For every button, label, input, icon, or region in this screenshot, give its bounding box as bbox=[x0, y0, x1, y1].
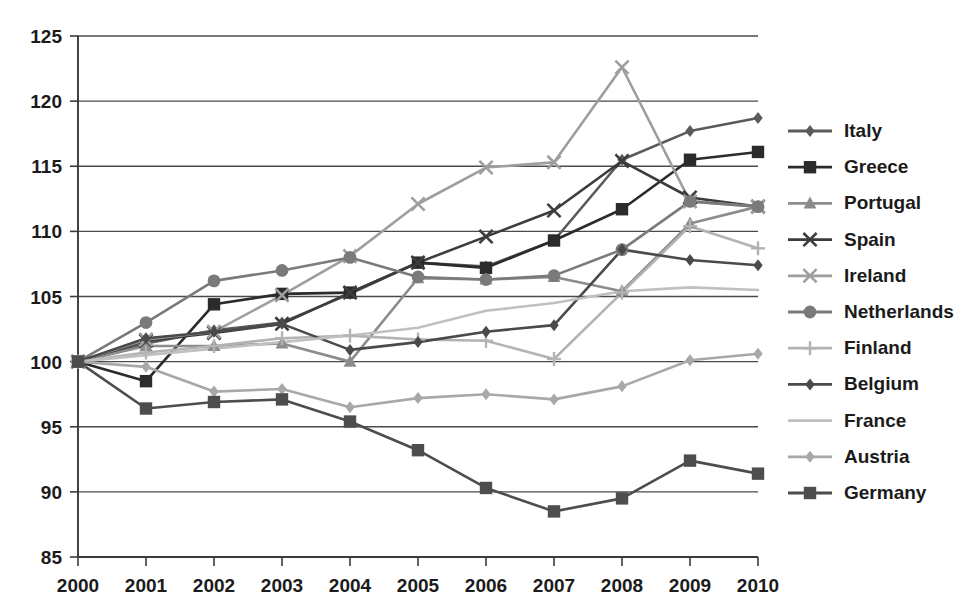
circle-marker bbox=[276, 264, 289, 277]
y-tick-label: 100 bbox=[30, 352, 62, 373]
y-tick-label: 90 bbox=[41, 482, 62, 503]
legend-label: Ireland bbox=[844, 265, 906, 286]
legend-item-france[interactable]: France bbox=[788, 410, 906, 431]
square-marker bbox=[480, 262, 492, 274]
legend-item-portugal[interactable]: Portugal bbox=[788, 192, 921, 213]
diamond-marker bbox=[685, 125, 694, 137]
diamond-marker bbox=[141, 361, 150, 373]
plus-marker bbox=[803, 341, 817, 355]
x-tick-label: 2003 bbox=[261, 575, 303, 596]
plus-marker bbox=[751, 241, 765, 255]
y-tick-label: 125 bbox=[30, 26, 62, 47]
x-tick-label: 2000 bbox=[57, 575, 99, 596]
circle-marker bbox=[684, 195, 697, 208]
diamond-marker bbox=[805, 378, 814, 390]
diamond-marker bbox=[413, 392, 422, 404]
square-marker bbox=[276, 393, 288, 405]
chart-canvas: 859095100105110115120125 200020012002200… bbox=[0, 0, 976, 615]
legend-label: Austria bbox=[844, 446, 910, 467]
series-markers-italy bbox=[73, 112, 762, 368]
x-axis-ticks bbox=[78, 557, 758, 566]
legend-item-greece[interactable]: Greece bbox=[788, 156, 908, 177]
legend-item-belgium[interactable]: Belgium bbox=[788, 373, 919, 394]
y-axis-tick-labels: 859095100105110115120125 bbox=[30, 26, 62, 568]
diamond-marker bbox=[753, 348, 762, 360]
x-marker bbox=[547, 204, 560, 217]
diamond-marker bbox=[549, 393, 558, 405]
square-marker bbox=[752, 467, 764, 479]
square-marker bbox=[684, 154, 696, 166]
series-line-germany bbox=[78, 362, 758, 512]
square-marker bbox=[752, 146, 764, 158]
legend-item-ireland[interactable]: Ireland bbox=[788, 265, 906, 286]
circle-marker bbox=[140, 316, 153, 329]
x-tick-label: 2009 bbox=[669, 575, 711, 596]
circle-marker bbox=[752, 200, 765, 213]
legend-item-germany[interactable]: Germany bbox=[788, 482, 927, 503]
legend-label: Germany bbox=[844, 482, 927, 503]
x-marker bbox=[411, 197, 424, 210]
diamond-marker bbox=[345, 344, 354, 356]
x-tick-label: 2006 bbox=[465, 575, 507, 596]
legend-label: Portugal bbox=[844, 192, 921, 213]
circle-marker bbox=[344, 251, 357, 264]
x-tick-label: 2001 bbox=[125, 575, 168, 596]
x-tick-label: 2008 bbox=[601, 575, 643, 596]
square-marker bbox=[548, 234, 560, 246]
square-marker bbox=[616, 203, 628, 215]
diamond-marker bbox=[481, 326, 490, 338]
series-markers-ireland bbox=[71, 61, 764, 369]
x-tick-label: 2002 bbox=[193, 575, 235, 596]
circle-marker bbox=[208, 274, 221, 287]
diamond-marker bbox=[617, 380, 626, 392]
legend-item-finland[interactable]: Finland bbox=[788, 337, 912, 358]
y-axis-ticks bbox=[70, 36, 78, 557]
diamond-marker bbox=[209, 386, 218, 398]
diamond-marker bbox=[413, 336, 422, 348]
y-tick-label: 105 bbox=[30, 287, 62, 308]
circle-marker bbox=[804, 306, 817, 319]
series-line-italy bbox=[78, 118, 758, 362]
x-axis-tick-labels: 2000200120022003200420052006200720082009… bbox=[57, 575, 779, 596]
square-marker bbox=[804, 487, 816, 499]
legend-label: Spain bbox=[844, 229, 896, 250]
legend-item-austria[interactable]: Austria bbox=[788, 446, 910, 467]
legend-item-netherlands[interactable]: Netherlands bbox=[788, 301, 954, 322]
diamond-marker bbox=[685, 354, 694, 366]
series-markers-austria bbox=[73, 348, 762, 413]
y-tick-label: 95 bbox=[41, 417, 63, 438]
legend-label: France bbox=[844, 410, 906, 431]
y-tick-label: 120 bbox=[30, 91, 62, 112]
x-tick-label: 2005 bbox=[397, 575, 440, 596]
y-tick-label: 110 bbox=[31, 221, 62, 242]
square-marker bbox=[684, 454, 696, 466]
y-tick-label: 85 bbox=[41, 547, 63, 568]
legend-label: Greece bbox=[844, 156, 908, 177]
square-marker bbox=[804, 161, 816, 173]
series-line-ireland bbox=[78, 67, 758, 361]
square-marker bbox=[208, 298, 220, 310]
circle-marker bbox=[480, 273, 493, 286]
legend-item-italy[interactable]: Italy bbox=[788, 120, 882, 141]
legend-label: Belgium bbox=[844, 373, 919, 394]
square-marker bbox=[140, 375, 152, 387]
x-tick-label: 2004 bbox=[329, 575, 372, 596]
circle-marker bbox=[412, 271, 425, 284]
x-tick-label: 2007 bbox=[533, 575, 575, 596]
circle-marker bbox=[548, 269, 561, 282]
diamond-marker bbox=[345, 401, 354, 413]
diamond-marker bbox=[805, 451, 814, 463]
diamond-marker bbox=[481, 388, 490, 400]
legend-label: Finland bbox=[844, 337, 912, 358]
x-tick-label: 2010 bbox=[737, 575, 779, 596]
legend-item-spain[interactable]: Spain bbox=[788, 229, 896, 250]
square-marker bbox=[548, 505, 560, 517]
square-marker bbox=[208, 396, 220, 408]
diamond-marker bbox=[277, 383, 286, 395]
line-chart: 859095100105110115120125 200020012002200… bbox=[0, 0, 976, 615]
square-marker bbox=[616, 492, 628, 504]
y-tick-label: 115 bbox=[31, 156, 62, 177]
square-marker bbox=[72, 355, 84, 367]
square-marker bbox=[480, 482, 492, 494]
diamond-marker bbox=[753, 112, 762, 124]
